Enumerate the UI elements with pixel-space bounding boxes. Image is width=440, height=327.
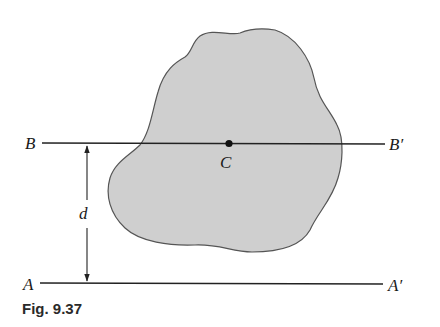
irregular-area-shape (108, 29, 342, 252)
label-A: A (22, 275, 34, 294)
label-A-prime: A′ (387, 276, 402, 295)
label-C: C (220, 153, 232, 172)
label-d: d (79, 204, 88, 223)
figure-caption: Fig. 9.37 (22, 300, 82, 317)
figure-diagram: B B′ C d A A′ (0, 0, 440, 327)
label-B-prime: B′ (389, 135, 403, 154)
label-B: B (25, 134, 36, 153)
axis-line-AA (40, 283, 383, 284)
centroid-dot (225, 140, 232, 147)
